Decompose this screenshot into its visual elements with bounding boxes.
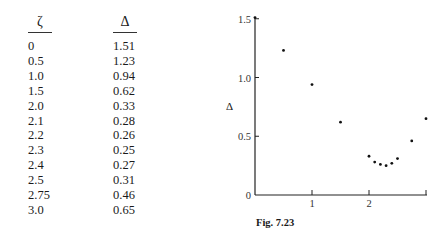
y-tick-label: 0 (246, 190, 251, 201)
data-point (425, 117, 428, 120)
x-tick-label: 2 (366, 198, 371, 209)
data-point (379, 163, 382, 166)
y-tick-label: 0.5 (238, 131, 251, 142)
data-point (385, 164, 388, 167)
data-point (396, 157, 399, 160)
y-tick-label: 1.0 (238, 73, 251, 84)
data-points (254, 16, 428, 167)
data-point (390, 162, 393, 165)
data-point (254, 16, 257, 19)
y-ticks: 00.51.01.5 (238, 14, 259, 201)
data-point (339, 121, 342, 124)
data-point (410, 140, 413, 143)
data-point (368, 155, 371, 158)
scatter-plot: 00.51.01.5 12 (0, 0, 448, 238)
x-tick-label: 1 (309, 198, 314, 209)
x-ticks: 12 (309, 190, 371, 209)
figure-caption: Fig. 7.23 (256, 217, 294, 228)
y-axis-label: Δ (226, 100, 233, 112)
data-point (311, 83, 314, 86)
y-tick-label: 1.5 (238, 14, 251, 25)
data-point (373, 161, 376, 164)
data-point (282, 49, 285, 52)
